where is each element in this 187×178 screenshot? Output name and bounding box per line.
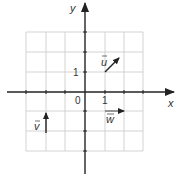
vector-u-label: u (101, 56, 107, 68)
vector-u: u (101, 56, 119, 72)
vector-w: w (105, 111, 124, 125)
vector-v-label: v (34, 120, 41, 132)
origin-label: 0 (75, 95, 81, 106)
x-tick-label-1: 1 (102, 95, 108, 106)
coordinate-plane: y x 0 1 1 u v w (0, 0, 187, 178)
vector-w-label: w (106, 113, 115, 125)
vector-v: v (34, 113, 46, 133)
y-axis-label: y (69, 2, 77, 14)
x-axis-label: x (167, 97, 174, 109)
y-tick-label-1: 1 (73, 67, 79, 78)
